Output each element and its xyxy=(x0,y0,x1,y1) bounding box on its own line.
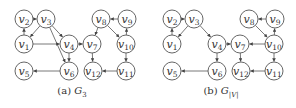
node-v8: v8 xyxy=(240,10,258,28)
edge-v8-to-v10 xyxy=(107,25,119,37)
node-v10: v10 xyxy=(117,35,135,53)
node-v6: v6 xyxy=(208,62,226,80)
node-v2: v2 xyxy=(163,10,181,28)
node-v12: v12 xyxy=(232,62,250,80)
node-v7: v7 xyxy=(231,35,249,53)
node-v8: v8 xyxy=(92,10,110,28)
node-v1: v1 xyxy=(163,35,181,53)
node-v11: v11 xyxy=(265,62,283,80)
node-v5: v5 xyxy=(15,62,33,80)
edge-v8-to-v7 xyxy=(95,27,98,35)
node-v1: v1 xyxy=(15,35,33,53)
edge-v8-to-v10 xyxy=(255,25,267,37)
edge-v3-to-v1 xyxy=(178,26,188,37)
edge-v3-to-v1 xyxy=(30,26,40,37)
node-v3: v3 xyxy=(37,10,55,28)
graph-figure: v1v2v3v4v5v6v7v8v9v10v11v12 (a) G3 v1v2v… xyxy=(0,0,296,108)
node-v9: v9 xyxy=(118,10,136,28)
node-layer: v1v2v3v4v5v6v7v8v9v10v11v12 xyxy=(163,10,284,80)
node-layer: v1v2v3v4v5v6v7v8v9v10v11v12 xyxy=(15,10,136,80)
panel-g-v: v1v2v3v4v5v6v7v8v9v10v11v12 (b) G|V| xyxy=(163,10,284,99)
node-v2: v2 xyxy=(15,10,33,28)
node-v4: v4 xyxy=(60,35,78,53)
node-v3: v3 xyxy=(185,10,203,28)
node-v7: v7 xyxy=(83,35,101,53)
node-v9: v9 xyxy=(266,10,284,28)
node-v12: v12 xyxy=(84,62,102,80)
caption-g3: (a) G3 xyxy=(57,85,86,99)
edge-v3-to-v4 xyxy=(52,26,62,37)
node-v4: v4 xyxy=(208,35,226,53)
panel-g3: v1v2v3v4v5v6v7v8v9v10v11v12 (a) G3 xyxy=(15,10,136,99)
edge-v3-to-v4 xyxy=(200,26,210,37)
node-v5: v5 xyxy=(163,62,181,80)
node-v6: v6 xyxy=(60,62,78,80)
node-v10: v10 xyxy=(265,35,283,53)
node-v11: v11 xyxy=(117,62,135,80)
caption-g-v: (b) G|V| xyxy=(203,85,238,99)
